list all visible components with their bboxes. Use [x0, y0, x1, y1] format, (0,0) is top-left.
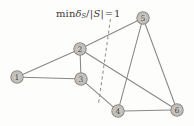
graph-node-5[interactable]: 5 [137, 12, 149, 24]
graph-node-3[interactable]: 3 [75, 73, 87, 85]
graph-edge-2-5 [85, 20, 138, 46]
node-label-4: 4 [116, 107, 121, 116]
node-label-5: 5 [141, 14, 146, 23]
graph-edge-1-3 [23, 77, 76, 79]
graph-node-2[interactable]: 2 [74, 43, 86, 55]
graph-edge-2-3 [80, 55, 81, 74]
node-label-2: 2 [78, 45, 83, 54]
graph-node-4[interactable]: 4 [112, 105, 124, 117]
node-label-6: 6 [175, 106, 180, 115]
edge-layer [22, 20, 175, 110]
cut-value-label: minδS/|S|=1 [56, 9, 120, 20]
graph-edge-1-2 [22, 51, 75, 74]
cut-label-equals: = [104, 8, 114, 19]
graph-node-6[interactable]: 6 [171, 104, 183, 116]
cut-label-min: min [56, 8, 75, 19]
graph-edge-4-6 [124, 110, 172, 111]
node-layer: 123456 [11, 12, 183, 117]
graph-node-1[interactable]: 1 [11, 71, 23, 83]
graph-figure: 123456 minδS/|S|=1 [0, 0, 194, 126]
cut-label-value: 1 [114, 8, 120, 19]
node-label-3: 3 [79, 75, 84, 84]
graph-edge-4-5 [119, 23, 141, 105]
node-label-1: 1 [15, 73, 20, 82]
